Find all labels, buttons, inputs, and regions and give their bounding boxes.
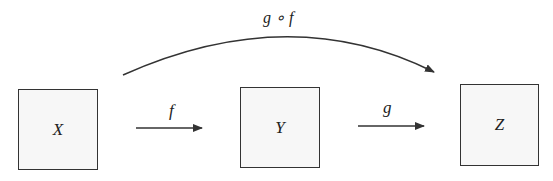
- arrow-g-compose-f: [123, 37, 434, 75]
- node-y: Y: [240, 87, 320, 168]
- node-x: X: [18, 89, 98, 170]
- edge-f-label: f: [169, 101, 174, 121]
- edge-g-label: g: [383, 98, 392, 118]
- node-z-label: Z: [495, 115, 504, 135]
- node-y-label: Y: [275, 118, 284, 138]
- edge-gf-label: g ∘ f: [263, 8, 293, 27]
- node-z: Z: [460, 84, 539, 166]
- node-x-label: X: [53, 120, 63, 140]
